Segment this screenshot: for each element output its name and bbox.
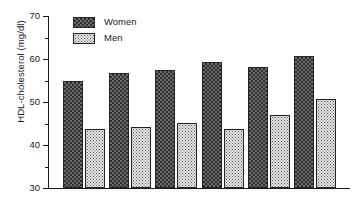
bar-men-3: [177, 123, 197, 188]
bar-men-4: [224, 129, 244, 188]
y-tick-major: [43, 102, 48, 103]
y-tick-minor: [45, 38, 48, 39]
legend-item-women: Women: [73, 16, 137, 28]
y-tick-major: [43, 188, 48, 189]
bar-women-4: [202, 62, 222, 188]
x-axis-line: [48, 188, 350, 189]
bar-women-6: [294, 56, 314, 188]
bar-men-6: [316, 99, 336, 188]
bar-men-5: [270, 115, 290, 188]
bar-men-2: [131, 127, 151, 188]
legend-label-women: Women: [104, 17, 137, 27]
legend-item-men: Men: [73, 32, 137, 44]
chart-legend: Women Men: [73, 16, 137, 48]
bar-women-3: [155, 70, 175, 188]
y-tick-major: [43, 145, 48, 146]
y-tick-label: 50: [10, 97, 40, 107]
y-tick-label: 60: [10, 54, 40, 64]
y-tick-label: 70: [10, 11, 40, 21]
y-tick-minor: [45, 81, 48, 82]
legend-label-men: Men: [104, 33, 122, 43]
bar-men-1: [85, 129, 105, 188]
y-tick-major: [43, 16, 48, 17]
y-tick-label: 40: [10, 140, 40, 150]
y-axis-line: [48, 16, 49, 189]
y-tick-label: 30: [10, 183, 40, 193]
bar-women-1: [63, 81, 83, 189]
legend-swatch-women-icon: [73, 17, 95, 28]
y-tick-major: [43, 59, 48, 60]
y-axis-title: HDL-cholesterol (mg/dl): [15, 0, 26, 147]
y-tick-minor: [45, 124, 48, 125]
chart-figure: HDL-cholesterol (mg/dl) 3040506070 Women…: [0, 0, 355, 210]
y-tick-minor: [45, 167, 48, 168]
bar-women-2: [109, 73, 129, 188]
legend-swatch-men-icon: [73, 33, 95, 44]
bar-women-5: [248, 67, 268, 188]
